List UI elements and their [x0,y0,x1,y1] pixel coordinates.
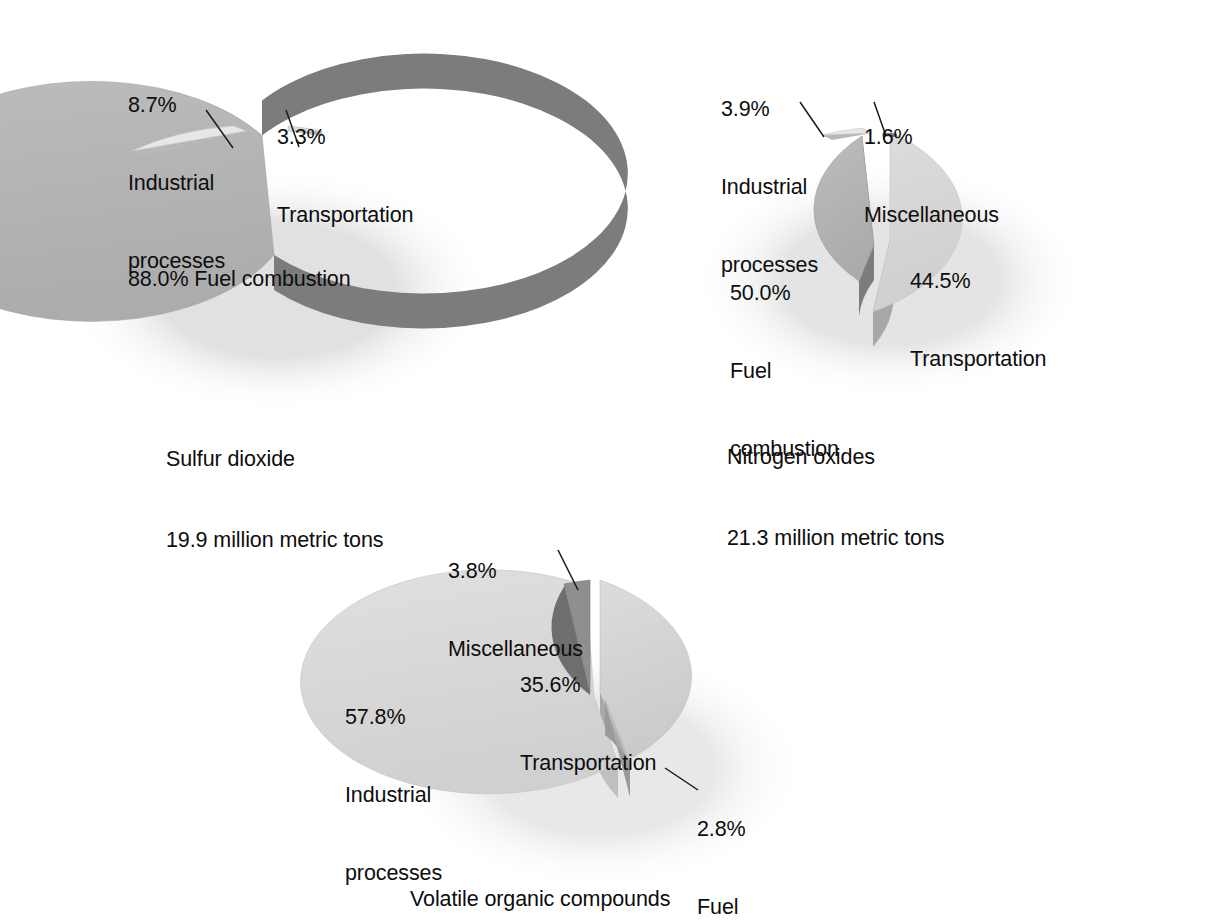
callout-pct: 1.6% [864,124,999,150]
inner-label-line-1: 44.5% [910,268,1046,294]
inner-label-line-1: 35.6% [520,672,656,698]
caption-volatile-organic-compounds: Volatile organic compounds 21.2 million … [410,832,670,924]
inner-label-line-2: Fuel [730,358,839,384]
callout-pct: 2.8% [697,816,806,842]
callout-name-1: Industrial [128,170,225,196]
inner-label-line-2: Industrial [345,782,442,808]
caption-line-1: Volatile organic compounds [410,886,670,913]
caption-line-1: Sulfur dioxide [166,446,383,473]
chart-volatile-organic-compounds: 3.8% Miscellaneous 2.8% Fuel combustion … [300,500,920,924]
chart-nitrogen-oxides: 3.9% Industrial processes 1.6% Miscellan… [600,0,1213,470]
chart-sulfur-dioxide: 8.7% Industrial processes 3.3% Transport… [0,0,560,470]
callout-pct: 3.9% [721,96,818,122]
callout-name-1: Transportation [277,202,413,228]
pie-chart-figure: 8.7% Industrial processes 3.3% Transport… [0,0,1213,924]
inner-label-transportation: 35.6% Transportation [520,620,656,828]
inner-label-fuel-combustion: 88.0% Fuel combustion [128,266,351,292]
callout-pct: 3.8% [448,558,583,584]
callout-transportation: 3.3% Transportation [277,72,413,280]
callout-pct: 3.3% [277,124,413,150]
caption-line-1: Nitrogen oxides [727,444,944,471]
inner-label-line-2: Transportation [910,346,1046,372]
callout-name-1: Fuel [697,894,806,920]
callout-fuel-combustion: 2.8% Fuel combustion [697,764,806,924]
callout-pct: 8.7% [128,92,225,118]
inner-label-line-1: 57.8% [345,704,442,730]
inner-label-line-2: Transportation [520,750,656,776]
inner-label-line-1: 50.0% [730,280,839,306]
callout-name-1: Industrial [721,174,818,200]
